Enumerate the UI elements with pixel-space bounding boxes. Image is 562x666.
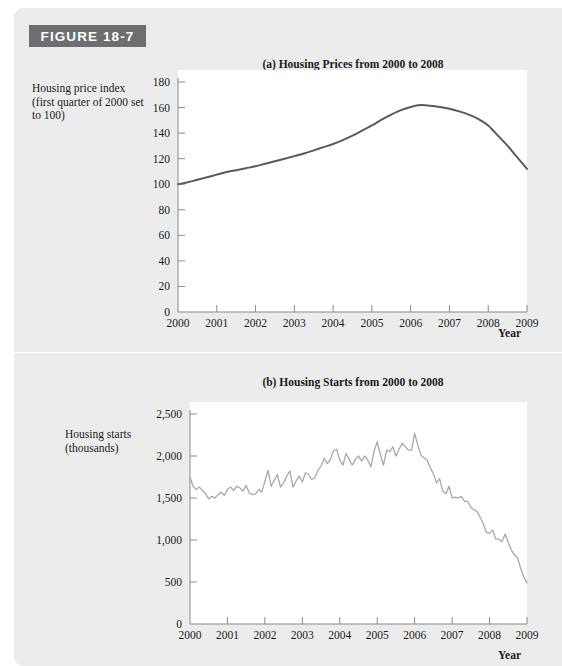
x-tick-label: 2002 [253,629,276,641]
x-tick-label: 2003 [291,629,314,641]
y-tick-label: 140 [153,127,171,139]
y-tick-label: 20 [159,280,171,292]
x-tick-label: 2004 [322,317,345,329]
x-tick-label: 2000 [167,317,190,329]
y-tick-label: 160 [153,102,171,114]
x-tick-label: 2001 [216,629,239,641]
x-tick-label: 2008 [478,629,501,641]
x-tick-label: 2007 [438,317,461,329]
x-tick-label: 2001 [205,317,228,329]
x-tick-label: 2005 [360,317,383,329]
x-tick-label: 2004 [328,629,351,641]
y-tick-label: 180 [153,76,171,88]
x-tick-label: 2006 [399,317,422,329]
y-tick-label: 120 [153,153,171,165]
x-tick-label: 2008 [477,317,500,329]
y-tick-label: 80 [159,204,171,216]
x-tick-label: 2007 [441,629,464,641]
x-tick-label: 2005 [366,629,389,641]
y-tick-label: 500 [165,576,183,588]
y-tick-label: 1,500 [156,492,182,505]
figure-root: FIGURE 18-7 (a) Housing Prices from 2000… [0,0,562,666]
y-tick-label: 100 [153,178,171,190]
chart-a-plot: 0204060801001201401601802000200120022003… [0,0,562,352]
x-tick-label: 2009 [516,317,539,329]
y-tick-label: 2,500 [156,408,182,421]
x-tick-label: 2000 [179,629,202,641]
chart-b-plot: 05001,0001,5002,0002,5002000200120022003… [0,352,562,666]
x-tick-label: 2003 [283,317,306,329]
y-tick-label: 40 [159,255,171,267]
x-tick-label: 2002 [244,317,267,329]
x-tick-label: 2006 [403,629,426,641]
y-tick-label: 1,000 [156,534,182,547]
y-tick-label: 2,000 [156,450,182,463]
x-tick-label: 2009 [516,629,539,641]
y-tick-label: 60 [159,229,171,241]
